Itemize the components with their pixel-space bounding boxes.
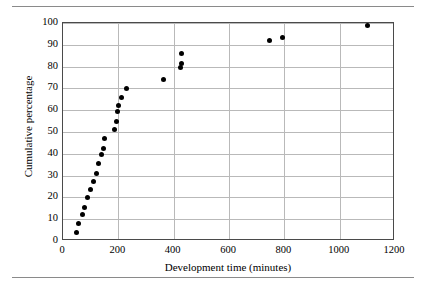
data-point: [124, 86, 129, 91]
y-axis-label: Cumulative percentage: [22, 47, 35, 207]
y-tick-label: 10: [24, 213, 58, 224]
data-point: [365, 23, 370, 28]
data-point: [76, 221, 81, 226]
x-tick-label: 800: [275, 245, 291, 256]
figure: 0102030405060708090100 02004006008001000…: [0, 0, 426, 290]
data-point: [119, 95, 124, 100]
x-tick-label: 600: [220, 245, 236, 256]
data-point: [91, 179, 96, 184]
data-point: [94, 171, 99, 176]
data-point: [85, 195, 90, 200]
data-point: [96, 161, 101, 166]
data-point: [161, 77, 166, 82]
data-point: [80, 212, 85, 217]
plot-area: [62, 22, 394, 240]
data-point: [179, 51, 184, 56]
x-tick-label: 0: [59, 245, 64, 256]
data-point: [88, 187, 93, 192]
data-point: [101, 146, 106, 151]
x-tick-label: 400: [165, 245, 181, 256]
data-point: [99, 152, 104, 157]
top-horizontal-rule: [12, 6, 414, 7]
x-tick-label: 1000: [328, 245, 349, 256]
data-point: [82, 205, 87, 210]
x-tick-label: 200: [109, 245, 125, 256]
y-tick-label: 0: [24, 235, 58, 246]
scatter-points: [63, 23, 393, 239]
x-axis-label: Development time (minutes): [62, 261, 394, 274]
data-point: [280, 35, 285, 40]
y-tick-label: 100: [24, 17, 58, 28]
data-point: [115, 109, 120, 114]
data-point: [114, 119, 119, 124]
data-point: [116, 103, 121, 108]
data-point: [267, 38, 272, 43]
data-point: [74, 230, 79, 235]
data-point: [178, 65, 183, 70]
data-point: [179, 61, 184, 66]
x-tick-label: 1200: [384, 245, 405, 256]
bottom-horizontal-rule: [12, 277, 414, 278]
data-point: [102, 136, 107, 141]
data-point: [112, 127, 117, 132]
x-axis-tick-labels: 020040060080010001200: [62, 245, 394, 259]
